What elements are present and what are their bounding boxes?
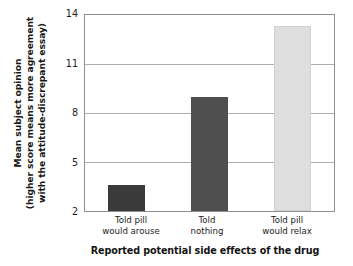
- x-tick-label-3-line-2: would relax: [241, 226, 333, 237]
- bar-told-pill-would-arouse: [108, 185, 145, 211]
- x-axis-title: Reported potential side effects of the d…: [60, 245, 350, 256]
- x-tick-label-2-line-2: nothing: [161, 226, 253, 237]
- x-tick-label-3: Told pill would relax: [241, 215, 333, 237]
- y-axis-title: Mean subject opinion (higher score means…: [0, 0, 60, 226]
- y-tick-label-11: 11: [52, 58, 78, 69]
- y-tick-label-2: 2: [52, 206, 78, 217]
- x-tick-label-2: Told nothing: [161, 215, 253, 237]
- y-tick-label-8: 8: [52, 107, 78, 118]
- bar-told-pill-would-relax: [274, 26, 311, 211]
- y-tick-label-5: 5: [52, 157, 78, 168]
- y-axis-title-line-1: Mean subject opinion: [12, 17, 24, 209]
- plot-area: [84, 14, 335, 212]
- y-axis-title-line-3: with the attitude-discrepant essay): [36, 17, 48, 209]
- x-tick-label-2-line-1: Told: [161, 215, 253, 226]
- bar-told-nothing: [191, 97, 228, 211]
- y-tick-label-14: 14: [52, 8, 78, 19]
- chart-figure: Mean subject opinion (higher score means…: [0, 0, 353, 266]
- y-axis-title-line-2: (higher score means more agreement: [24, 17, 36, 209]
- x-tick-label-3-line-1: Told pill: [241, 215, 333, 226]
